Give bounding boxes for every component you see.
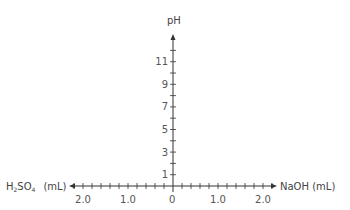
y-tick-label: 9	[162, 79, 168, 90]
x-tick-label-right: 1.0	[210, 194, 226, 205]
x-axis-label-right: NaOH (mL)	[280, 181, 335, 192]
x-axis-label-left: H2SO4(mL)	[6, 181, 67, 193]
y-tick-label: 5	[162, 124, 168, 135]
y-tick-label: 3	[162, 147, 168, 158]
arrow-up-icon	[171, 34, 176, 40]
x-tick-label-right: 2.0	[255, 194, 271, 205]
x-tick-label-left: 1.0	[120, 194, 136, 205]
y-axis-label: pH	[167, 15, 181, 26]
y-tick-label: 1	[162, 169, 168, 180]
x-tick-label-left: 2.0	[75, 194, 91, 205]
origin-label: 0	[169, 194, 175, 205]
y-tick-label: 11	[155, 56, 168, 67]
titration-axes-chart: 13579112.01.01.02.0 pH NaOH (mL) H2SO4(m…	[0, 0, 350, 210]
y-tick-label: 7	[162, 101, 168, 112]
axes	[69, 34, 277, 192]
